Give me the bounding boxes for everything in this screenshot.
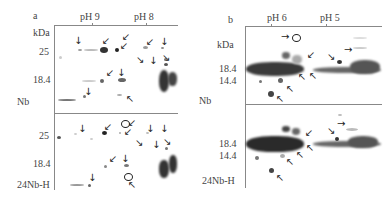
arrow-up-left-icon: ↖ xyxy=(286,84,294,94)
arrow-down-icon: ↓ xyxy=(74,36,82,46)
protein-spot xyxy=(338,114,342,116)
protein-spot xyxy=(280,154,285,158)
mw-marker-25-top-a: 25 xyxy=(39,47,49,57)
ph-tick-9 xyxy=(92,23,93,26)
protein-spot xyxy=(88,184,91,187)
arrow-down-right-icon: ↘ xyxy=(327,52,335,62)
protein-spot xyxy=(57,136,61,139)
protein-spot xyxy=(100,79,104,83)
gel-label-24nbh-a: 24Nb-H xyxy=(17,180,50,190)
ph-axis-a xyxy=(54,25,178,26)
arrow-up-left-icon: ↖ xyxy=(286,157,294,167)
arrow-down-right-icon: ↘ xyxy=(163,137,171,147)
circle-marker xyxy=(292,34,301,42)
protein-spot xyxy=(353,47,367,49)
ph-tick-6 xyxy=(271,24,272,27)
protein-cluster xyxy=(159,160,169,178)
mw-marker-25-bottom-a: 25 xyxy=(39,131,49,141)
gel-label-24nbh-b: 24Nb-H xyxy=(202,176,235,186)
protein-band xyxy=(246,62,304,76)
arrow-right-icon: → xyxy=(344,45,352,55)
mw-marker-184-bottom-a: 18.4 xyxy=(33,159,51,169)
gel-label-nb-a: Nb xyxy=(17,97,29,107)
gel-divider-a xyxy=(54,113,178,114)
arrow-down-left-icon: ↙ xyxy=(120,41,128,51)
kda-label-a: kDa xyxy=(33,28,50,38)
ph-tick-8 xyxy=(146,23,147,26)
protein-band xyxy=(350,60,380,74)
panel-label-b: b xyxy=(228,15,233,25)
protein-spot xyxy=(282,126,290,132)
ph-axis-b xyxy=(245,26,382,27)
protein-spot xyxy=(78,49,82,51)
protein-cluster xyxy=(168,72,177,86)
protein-spot xyxy=(164,63,168,66)
protein-band xyxy=(348,136,378,148)
protein-spot xyxy=(269,168,274,173)
ph-label-5: pH 5 xyxy=(320,13,340,23)
kda-label-b: kDa xyxy=(217,40,234,50)
mw-marker-184-top-a: 18.4 xyxy=(33,75,51,85)
protein-spot xyxy=(255,156,259,160)
protein-spot xyxy=(118,78,126,82)
arrow-down-icon: ↓ xyxy=(160,37,168,47)
protein-spot xyxy=(84,49,98,51)
protein-spot xyxy=(292,128,300,135)
protein-spot xyxy=(58,99,76,101)
protein-spot xyxy=(124,164,129,167)
gel-divider-b xyxy=(245,104,382,105)
arrow-right-icon: → xyxy=(281,32,289,42)
protein-spot xyxy=(117,94,122,96)
arrow-down-right-icon: ↘ xyxy=(327,126,335,136)
mw-axis-b xyxy=(245,26,246,188)
protein-spot xyxy=(335,137,339,141)
arrow-down-icon: ↓ xyxy=(152,140,160,150)
arrow-down-right-icon: ↘ xyxy=(162,53,170,63)
protein-spot xyxy=(292,55,302,64)
protein-spot xyxy=(100,47,108,53)
arrow-up-left-icon: ↖ xyxy=(276,94,284,104)
protein-spot xyxy=(82,80,96,82)
arrow-down-left-icon: ↙ xyxy=(146,37,154,47)
arrow-down-icon: ↓ xyxy=(88,173,96,183)
arrow-down-icon: ↓ xyxy=(149,56,157,66)
ph-tick-5 xyxy=(326,24,327,27)
arrow-right-icon: → xyxy=(337,119,345,129)
protein-spot xyxy=(161,47,164,49)
arrow-down-left-icon: ↙ xyxy=(102,36,110,46)
ph-label-8: pH 8 xyxy=(134,12,154,22)
panel-label-a: a xyxy=(33,11,37,21)
arrow-down-icon: ↓ xyxy=(146,124,154,134)
arrow-down-left-icon: ↙ xyxy=(106,68,114,78)
ph-label-6: pH 6 xyxy=(267,13,287,23)
mw-marker-184-bottom-b: 18.4 xyxy=(219,139,237,149)
arrow-down-left-icon: ↙ xyxy=(305,128,313,138)
protein-spot xyxy=(278,78,283,83)
arrow-up-left-icon: ↖ xyxy=(298,72,306,82)
mw-axis-a xyxy=(54,25,55,190)
protein-spot xyxy=(353,37,367,39)
protein-spot xyxy=(74,133,77,135)
arrow-down-left-icon: ↙ xyxy=(104,122,112,132)
protein-spot xyxy=(337,60,342,64)
mw-marker-144-bottom-b: 14.4 xyxy=(219,151,237,161)
arrow-down-icon: ↓ xyxy=(84,87,92,97)
arrow-up-left-icon: ↖ xyxy=(309,71,317,81)
protein-spot xyxy=(90,138,93,140)
arrow-up-left-icon: ↖ xyxy=(126,94,134,104)
protein-spot xyxy=(70,184,84,186)
protein-spot xyxy=(259,80,262,83)
protein-spot xyxy=(268,91,274,97)
gel-label-nb-b: Nb xyxy=(199,96,211,106)
protein-spot xyxy=(165,147,168,150)
arrow-down-icon: ↓ xyxy=(78,124,86,134)
arrow-down-left-icon: ↙ xyxy=(124,127,132,137)
arrow-down-icon: ↓ xyxy=(117,68,125,78)
protein-cluster xyxy=(169,155,177,173)
ph-label-9: pH 9 xyxy=(80,12,100,22)
protein-spot xyxy=(115,48,119,52)
arrow-up-left-icon: ↖ xyxy=(306,143,314,153)
protein-spot xyxy=(104,165,107,168)
mw-marker-184-top-b: 18.4 xyxy=(219,64,237,74)
protein-spot xyxy=(346,128,358,131)
